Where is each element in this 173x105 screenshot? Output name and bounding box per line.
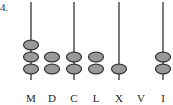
column-label: M [26,92,36,104]
bead [156,52,171,62]
column-label: L [93,92,100,104]
abacus-diagram: MDCLXVI [0,0,173,105]
column-X: X [112,2,127,104]
bead [45,64,60,74]
bead [67,52,82,62]
column-label: X [115,92,123,104]
column-I: I [156,2,171,104]
bead [24,40,39,50]
bead [45,52,60,62]
column-M: M [24,2,39,104]
column-V: V [137,92,145,104]
column-label: C [70,92,77,104]
bead [156,64,171,74]
bead [24,52,39,62]
column-label: I [161,92,165,104]
bead [24,64,39,74]
column-label: V [137,92,145,104]
bead [89,52,104,62]
bead [89,64,104,74]
column-C: C [67,2,82,104]
bead [67,64,82,74]
column-L: L [89,52,104,104]
column-label: D [48,92,56,104]
column-D: D [45,52,60,104]
bead [112,64,127,74]
